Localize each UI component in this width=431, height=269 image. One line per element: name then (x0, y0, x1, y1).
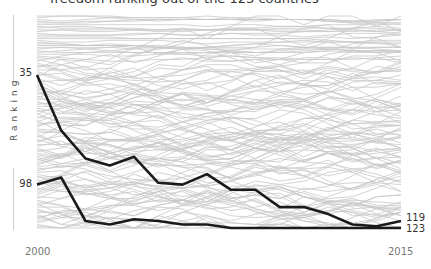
start-label-series-2: 98 (2, 178, 32, 189)
x-tick-start: 2000 (25, 246, 50, 257)
start-label-series-1: 35 (2, 67, 32, 78)
line-chart (0, 0, 431, 269)
x-tick-end: 2015 (388, 246, 413, 257)
end-label-series-2: 123 (406, 223, 425, 234)
end-label-series-1: 119 (406, 212, 425, 223)
background-country-lines (37, 16, 401, 228)
